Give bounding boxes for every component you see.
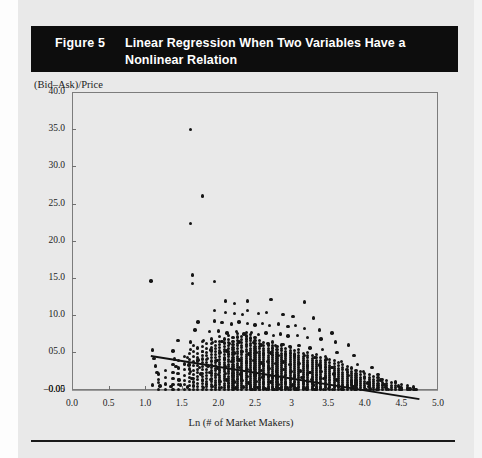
data-point <box>240 350 243 353</box>
x-tick-label: 4.5 <box>384 398 418 408</box>
y-tick-mark <box>72 315 76 316</box>
data-point <box>264 331 267 334</box>
data-point <box>173 357 176 360</box>
data-point <box>245 343 248 346</box>
data-point <box>242 385 245 388</box>
data-point <box>335 378 338 381</box>
data-point <box>245 368 248 371</box>
data-point <box>370 366 373 369</box>
y-tick-label: 10.0 <box>31 309 65 319</box>
data-point <box>297 362 300 365</box>
data-point <box>293 354 296 357</box>
y-tick-mark <box>72 241 76 242</box>
data-point <box>196 388 199 391</box>
data-point <box>187 363 190 366</box>
data-point <box>231 336 234 339</box>
x-tick-label: 3.5 <box>311 398 345 408</box>
data-point <box>231 374 234 377</box>
data-point <box>280 388 283 391</box>
data-point <box>341 388 344 391</box>
y-tick-label: 15.0 <box>31 272 65 282</box>
data-point <box>171 377 174 380</box>
data-point <box>157 378 160 381</box>
data-point <box>379 378 382 381</box>
data-point <box>281 343 284 346</box>
data-point <box>269 380 272 383</box>
data-point <box>352 354 355 357</box>
data-point <box>233 351 236 354</box>
data-point <box>201 357 204 360</box>
data-point <box>220 340 223 343</box>
x-tick-label: 3 <box>275 398 309 408</box>
x-tick-label: 2.0 <box>201 398 235 408</box>
data-point <box>281 360 284 363</box>
data-point <box>218 380 221 383</box>
data-point <box>179 383 182 386</box>
data-point <box>193 328 196 331</box>
y-tick-mark <box>72 129 76 130</box>
data-point <box>334 340 337 343</box>
data-point <box>223 357 226 360</box>
data-point <box>155 371 158 374</box>
x-tick-label: 0.5 <box>92 398 126 408</box>
data-point <box>183 374 186 377</box>
data-point <box>327 387 330 390</box>
x-tick-label: 2.5 <box>238 398 272 408</box>
data-point <box>225 331 228 334</box>
data-point <box>196 320 199 323</box>
data-point <box>306 364 309 367</box>
data-point <box>253 323 256 326</box>
data-point <box>225 349 228 352</box>
data-point <box>305 388 308 391</box>
data-point <box>171 349 174 352</box>
data-point <box>283 375 286 378</box>
data-point <box>288 363 291 366</box>
data-point <box>183 362 186 365</box>
data-point <box>223 365 226 368</box>
data-point <box>269 351 272 354</box>
x-tick-label: 1.5 <box>165 398 199 408</box>
data-point <box>375 388 378 391</box>
data-point <box>308 346 311 349</box>
data-point <box>340 360 343 363</box>
y-tick-label: 35.0 <box>31 123 65 133</box>
data-point <box>201 354 204 357</box>
data-point <box>288 345 291 348</box>
data-point <box>176 339 179 342</box>
scatter-chart: (Bid–Ask)/Price Ln (# of Market Makers) … <box>0 0 482 458</box>
data-point <box>227 388 230 391</box>
data-point <box>308 371 311 374</box>
data-point <box>171 388 174 391</box>
data-point <box>192 380 195 383</box>
data-point <box>188 380 191 383</box>
x-tick-label: 5.0 <box>421 398 455 408</box>
data-point <box>365 388 368 391</box>
data-point <box>296 388 299 391</box>
data-point <box>332 372 335 375</box>
data-point <box>223 388 226 391</box>
data-point <box>394 388 397 391</box>
y-tick-mark <box>72 166 76 167</box>
data-point <box>277 322 280 325</box>
data-point <box>164 382 167 385</box>
data-point <box>237 320 240 323</box>
data-point <box>330 331 333 334</box>
data-point <box>177 388 180 391</box>
data-point <box>299 369 302 372</box>
data-point <box>398 388 401 391</box>
data-point <box>192 373 195 376</box>
y-tick-label: 25.0 <box>31 198 65 208</box>
data-point <box>250 388 253 391</box>
x-tick-mark <box>109 386 110 390</box>
data-point <box>310 378 313 381</box>
x-tick-mark <box>145 386 146 390</box>
data-point <box>183 379 186 382</box>
data-point <box>176 372 179 375</box>
data-point <box>266 342 269 345</box>
data-point <box>215 359 218 362</box>
data-point <box>174 365 177 368</box>
data-point <box>296 334 299 337</box>
data-point <box>171 371 174 374</box>
y-tick-label: 0.00 <box>31 384 65 394</box>
data-point <box>272 388 275 391</box>
